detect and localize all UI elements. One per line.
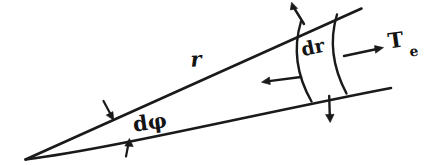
label-angle-dphi: dφ: [131, 107, 168, 136]
label-radial-thickness-dr: dr: [299, 34, 327, 61]
outward-normal-upper-arrow: [290, 2, 304, 24]
label-tension-T: T: [386, 27, 405, 54]
wedge-element-diagram: r dφ dr T e: [0, 0, 445, 165]
outer-arc: [333, 15, 347, 94]
diagram-labels: r dφ dr T e: [131, 27, 419, 137]
diagram-canvas: r dφ dr T e: [0, 0, 445, 165]
label-radius: r: [190, 46, 204, 72]
upper-radial-ray: [26, 9, 362, 160]
label-tension-subscript-e: e: [409, 43, 420, 60]
wedge-rays: [26, 9, 392, 160]
inward-radial-arrow: [262, 77, 302, 85]
angle-tick-upper-arrow: [104, 101, 114, 120]
lower-radial-ray: [26, 88, 392, 160]
tension-arrow: [344, 46, 384, 56]
element-force-arrows: [262, 2, 384, 122]
angle-tick-arrows: [104, 101, 134, 157]
